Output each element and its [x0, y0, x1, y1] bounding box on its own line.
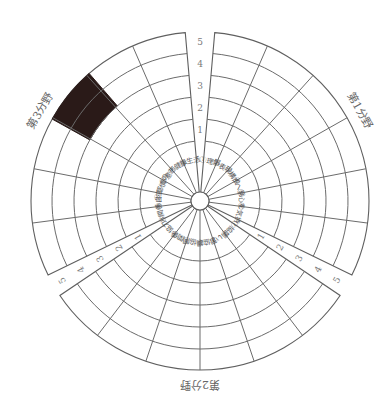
scale-tick-label: 3	[293, 253, 305, 263]
polar-rating-diagram: ①理解②表現③構成④へ発⑤心を⑥気持第1分野⑦協調⑧い習⑨協調⑩協同⑪関係⑫協力…	[0, 0, 392, 412]
center-hub	[191, 192, 209, 210]
polar-chart-canvas: ①理解②表現③構成④へ発⑤心を⑥気持第1分野⑦協調⑧い習⑨協調⑩協同⑪関係⑫協力…	[0, 0, 392, 412]
scale-tick-label: 5	[331, 275, 343, 285]
scale-tick-label: 2	[274, 242, 286, 252]
field-title: 第2分野	[180, 378, 220, 392]
scale-tick-label: 3	[94, 254, 106, 264]
scale-tick-label: 2	[113, 243, 125, 253]
scale-tick-label: 4	[197, 59, 203, 69]
scale-tick-label: 1	[197, 125, 203, 135]
scale-tick-label: 2	[197, 103, 203, 113]
scale-tick-label: 4	[75, 265, 87, 275]
scale-tick-label: 5	[197, 37, 203, 47]
scale-labels-gap-1: 12345	[197, 37, 203, 135]
scale-tick-label: 4	[312, 264, 324, 274]
scale-tick-label: 5	[56, 275, 68, 285]
scale-tick-label: 3	[197, 81, 203, 91]
